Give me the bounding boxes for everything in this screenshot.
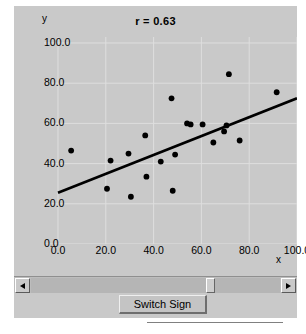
data-point bbox=[226, 71, 232, 77]
data-point bbox=[68, 148, 74, 154]
data-point bbox=[188, 122, 194, 128]
data-point bbox=[158, 159, 164, 165]
switch-sign-button[interactable]: Switch Sign bbox=[119, 295, 207, 314]
y-axis-label: y bbox=[42, 13, 47, 24]
scrollbar-right-button[interactable] bbox=[281, 278, 296, 293]
chart-title: r = 0.63 bbox=[14, 15, 297, 27]
data-point bbox=[170, 188, 176, 194]
applet-window: r = 0.63 y x 0.020.040.060.080.0100.0 0.… bbox=[14, 6, 297, 318]
x-tick-label: 40.0 bbox=[134, 244, 174, 256]
horizontal-scrollbar[interactable] bbox=[14, 276, 297, 293]
triangle-left-icon bbox=[20, 283, 25, 289]
y-tick-label: 20.0 bbox=[44, 197, 64, 209]
data-point bbox=[142, 133, 148, 139]
y-tick-label: 80.0 bbox=[44, 76, 64, 88]
data-point bbox=[169, 95, 175, 101]
regression-line bbox=[58, 98, 297, 192]
data-point bbox=[104, 186, 110, 192]
plot-canvas bbox=[44, 37, 297, 244]
x-tick-label: 100.0 bbox=[277, 244, 306, 256]
x-tick-label: 80.0 bbox=[229, 244, 269, 256]
gridlines bbox=[44, 37, 297, 244]
button-row: Switch Sign bbox=[14, 295, 297, 318]
data-point bbox=[126, 151, 132, 157]
data-point bbox=[221, 129, 227, 135]
triangle-right-icon bbox=[286, 283, 291, 289]
data-point bbox=[172, 152, 178, 158]
y-tick-label: 100.0 bbox=[44, 36, 70, 48]
data-point bbox=[200, 122, 206, 128]
scatter-plot-panel: r = 0.63 y x 0.020.040.060.080.0100.0 0.… bbox=[14, 6, 297, 272]
x-tick-label: 60.0 bbox=[181, 244, 221, 256]
data-point bbox=[237, 138, 243, 144]
scrollbar-left-button[interactable] bbox=[15, 278, 30, 293]
x-tick-label: 20.0 bbox=[86, 244, 126, 256]
scrollbar-thumb[interactable] bbox=[206, 278, 215, 293]
data-point bbox=[210, 140, 216, 146]
data-point bbox=[144, 174, 150, 180]
y-tick-label: 40.0 bbox=[44, 157, 64, 169]
data-point bbox=[128, 194, 134, 200]
regression-line-segment bbox=[58, 98, 297, 192]
scrollbar-track[interactable] bbox=[31, 278, 280, 293]
data-points bbox=[68, 71, 279, 199]
x-tick-label: 0.0 bbox=[38, 244, 78, 256]
y-tick-label: 60.0 bbox=[44, 116, 64, 128]
data-point bbox=[108, 158, 114, 164]
data-point bbox=[224, 123, 230, 129]
bottom-divider bbox=[147, 322, 283, 323]
data-point bbox=[274, 89, 280, 95]
plot-area bbox=[44, 37, 297, 244]
